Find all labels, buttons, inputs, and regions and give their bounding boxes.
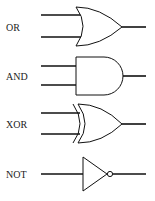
xor-gate-icon bbox=[78, 104, 122, 143]
and-label: AND bbox=[6, 71, 28, 82]
not-label: NOT bbox=[6, 169, 27, 180]
and-gate-icon bbox=[76, 57, 123, 95]
or-label: OR bbox=[6, 22, 20, 33]
not-gate-row: NOT bbox=[6, 157, 146, 191]
logic-gates-diagram: OR AND XOR NOT bbox=[0, 0, 155, 201]
or-gate-row: OR bbox=[6, 7, 146, 46]
and-gate-row: AND bbox=[6, 57, 146, 95]
xor-extra-curve-icon bbox=[73, 104, 80, 143]
or-gate-icon bbox=[76, 7, 122, 46]
xor-label: XOR bbox=[6, 119, 27, 130]
not-bubble-icon bbox=[107, 171, 112, 176]
not-gate-icon bbox=[83, 157, 107, 191]
xor-gate-row: XOR bbox=[6, 104, 146, 143]
